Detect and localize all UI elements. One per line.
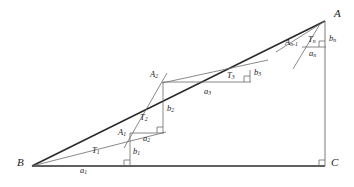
side-label-b2: b2 xyxy=(167,104,174,114)
right-angle-anbn-mark xyxy=(319,41,325,47)
side-label-a3: a3 xyxy=(204,87,211,97)
side-sub-a3: 3 xyxy=(208,90,211,96)
triangle-sub-t2: 2 xyxy=(145,116,148,122)
ray-a2-a3-line xyxy=(162,60,268,83)
side-label-a2: a2 xyxy=(143,134,150,144)
vertex-label-a: A xyxy=(334,8,341,19)
side-sub-bn: n xyxy=(333,37,336,43)
side-label-b3: b3 xyxy=(254,68,261,78)
right-angle-b1-mark xyxy=(124,160,130,166)
vertex-label-a2: A2 xyxy=(150,70,158,80)
triangle-label-t3: T3 xyxy=(227,71,235,81)
side-sub-b2: 2 xyxy=(171,107,174,113)
side-sub-a1: 1 xyxy=(84,169,87,175)
right-angle-at-c-mark xyxy=(319,160,325,166)
vertex-label-an-1: An-1 xyxy=(285,38,298,48)
vertex-label-c: C xyxy=(331,157,338,168)
triangle-label-t2: T2 xyxy=(140,113,148,123)
vertex-label-b: B xyxy=(17,157,24,168)
triangle-sub-tn: n xyxy=(313,38,316,44)
hypotenuse-ba-line xyxy=(32,21,325,166)
vertex-sub-an-1: n-1 xyxy=(290,41,298,47)
side-sub-a2: 2 xyxy=(147,137,150,143)
figure-canvas xyxy=(0,0,354,187)
vertex-sub-a2: 2 xyxy=(155,73,158,79)
triangle-label-t1: T1 xyxy=(92,146,100,156)
side-sub-b3: 3 xyxy=(258,71,261,77)
right-angle-a2b2-mark xyxy=(157,127,163,133)
side-label-an: an xyxy=(309,49,316,59)
triangle-sub-t1: 1 xyxy=(97,149,100,155)
side-label-a1: a1 xyxy=(80,166,87,176)
triangle-sub-t3: 3 xyxy=(232,74,235,80)
side-label-b1: b1 xyxy=(133,147,140,157)
side-sub-b1: 1 xyxy=(137,150,140,156)
vertex-label-a1: A1 xyxy=(118,128,126,138)
geometry-figure: A B C A1 A2 An-1 T1 T2 T3 Tn a1 b1 a2 b2 xyxy=(0,0,354,187)
right-angle-a3b3-mark xyxy=(244,76,250,82)
vertex-sub-a1: 1 xyxy=(123,131,126,137)
side-sub-an: n xyxy=(313,52,316,58)
triangle-label-tn: Tn xyxy=(308,35,316,45)
side-label-bn: bn xyxy=(329,34,336,44)
